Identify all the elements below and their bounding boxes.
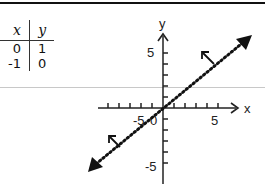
- x-tick-label-5: 5: [211, 113, 218, 128]
- y-tick-label-5: 5: [147, 45, 154, 60]
- annotation-arrow-upper-icon: [202, 52, 214, 64]
- x-axis-label: x: [244, 101, 251, 116]
- coordinate-plane: x y -5 0 5 5 -5: [0, 0, 265, 192]
- y-axis-label: y: [159, 16, 166, 31]
- y-axis: [163, 36, 168, 184]
- y-tick-label-neg5: -5: [145, 159, 157, 174]
- annotation-arrow-lower-icon: [109, 136, 120, 147]
